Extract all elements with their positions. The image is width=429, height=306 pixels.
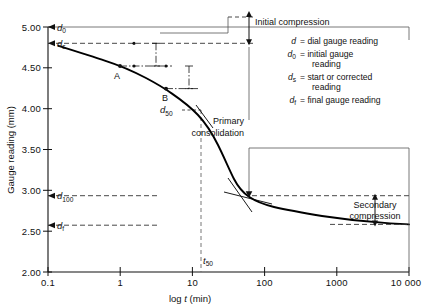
x-title-units: (min) — [187, 293, 211, 304]
legend-eq-2: = initial gauge — [300, 49, 353, 59]
d0-symbol-label: d0 — [57, 22, 66, 34]
legend-block: d = dial gauge reading d0 = initial gaug… — [288, 36, 381, 106]
legend-sym-base-1: d — [291, 36, 296, 46]
y-tick-label: 3.00 — [22, 185, 41, 196]
legend-eq-3: = start or corrected — [300, 72, 373, 82]
x-tick-label: 10 — [187, 277, 198, 288]
y-tick-label: 3.50 — [22, 144, 41, 155]
d100-arrow-icon — [48, 193, 55, 199]
legend-sym-sub-4: f — [294, 99, 296, 106]
y-tick-label: 2.00 — [22, 267, 41, 278]
d100-symbol-label: d100 — [57, 190, 74, 202]
legend-sym-1: d — [291, 36, 296, 46]
legend-sym-2: d0 — [288, 49, 297, 60]
df-arrow-icon — [48, 222, 55, 228]
marker-b-label: B — [162, 93, 168, 103]
marker-a-label: A — [114, 71, 120, 81]
legend-sym-sub-3: s — [293, 76, 297, 83]
x-tick-label: 10 000 — [391, 277, 421, 288]
secondary-compression-line1: Secondary — [353, 200, 397, 210]
x-title-log: log — [169, 293, 184, 304]
figure-root: 5.00 4.50 4.00 3.50 3.00 2.50 2.00 0.1 1… — [0, 0, 429, 306]
legend-sym-4: df — [289, 95, 296, 106]
t50-sub: 50 — [206, 260, 214, 267]
primary-consolidation-line2: consolidation — [191, 128, 244, 138]
x-tick-label: 1000 — [326, 277, 348, 288]
ds-sub: s — [62, 43, 66, 50]
legend-sym-3: ds — [288, 72, 297, 83]
d0-arrow-icon — [48, 24, 55, 30]
df-sub: f — [62, 225, 64, 232]
marker-a-dot — [118, 64, 122, 68]
x-axis-title: log t (min) — [169, 293, 211, 304]
d100-sub: 100 — [62, 196, 73, 203]
d50-symbol-label: d50 — [160, 104, 173, 116]
x-tick-label: 1 — [117, 277, 122, 288]
legend-sym-sub-2: 0 — [292, 53, 296, 60]
initial-compression-label: Initial compression — [255, 17, 330, 27]
primary-consolidation-bracket — [249, 47, 409, 196]
y-axis-tick-labels: 5.00 4.50 4.00 3.50 3.00 2.50 2.00 — [22, 22, 41, 278]
legend-eq-4: = final gauge reading — [300, 95, 381, 105]
ds-arrow-icon — [48, 40, 55, 46]
ds-symbol-label: ds — [57, 38, 66, 50]
d50-sub: 50 — [165, 110, 173, 117]
y-tick-label: 5.00 — [22, 22, 41, 33]
consolidation-log-time-chart: 5.00 4.50 4.00 3.50 3.00 2.50 2.00 0.1 1… — [0, 0, 429, 306]
x-axis-tick-labels: 0.1 1 10 100 1000 10 000 — [41, 277, 421, 288]
x-tick-label: 100 — [256, 277, 272, 288]
marker-b-dot — [164, 87, 168, 91]
callout-frame — [160, 17, 228, 33]
initial-compression-arrow — [246, 11, 252, 45]
primary-consolidation-line1: Primary — [213, 116, 244, 126]
secondary-compression-line2: compression — [349, 211, 400, 221]
y-tick-label: 4.50 — [22, 62, 41, 73]
x-tick-label: 0.1 — [41, 277, 55, 288]
t50-symbol-label: t50 — [203, 255, 213, 267]
legend-eq-1: = dial gauge reading — [300, 36, 378, 46]
y-axis-title: Gauge reading (mm) — [5, 106, 16, 194]
df-symbol-label: df — [57, 220, 64, 232]
y-tick-label: 4.00 — [22, 103, 41, 114]
legend-eq-2-cont: reading — [312, 59, 341, 69]
legend-eq-3-cont: reading — [312, 82, 341, 92]
axis-frame — [48, 27, 409, 272]
bracket-caps — [152, 43, 193, 88]
y-tick-label: 2.50 — [22, 226, 41, 237]
svg-text:log t (min): log t (min) — [169, 293, 211, 304]
d0-sub: 0 — [62, 27, 66, 34]
